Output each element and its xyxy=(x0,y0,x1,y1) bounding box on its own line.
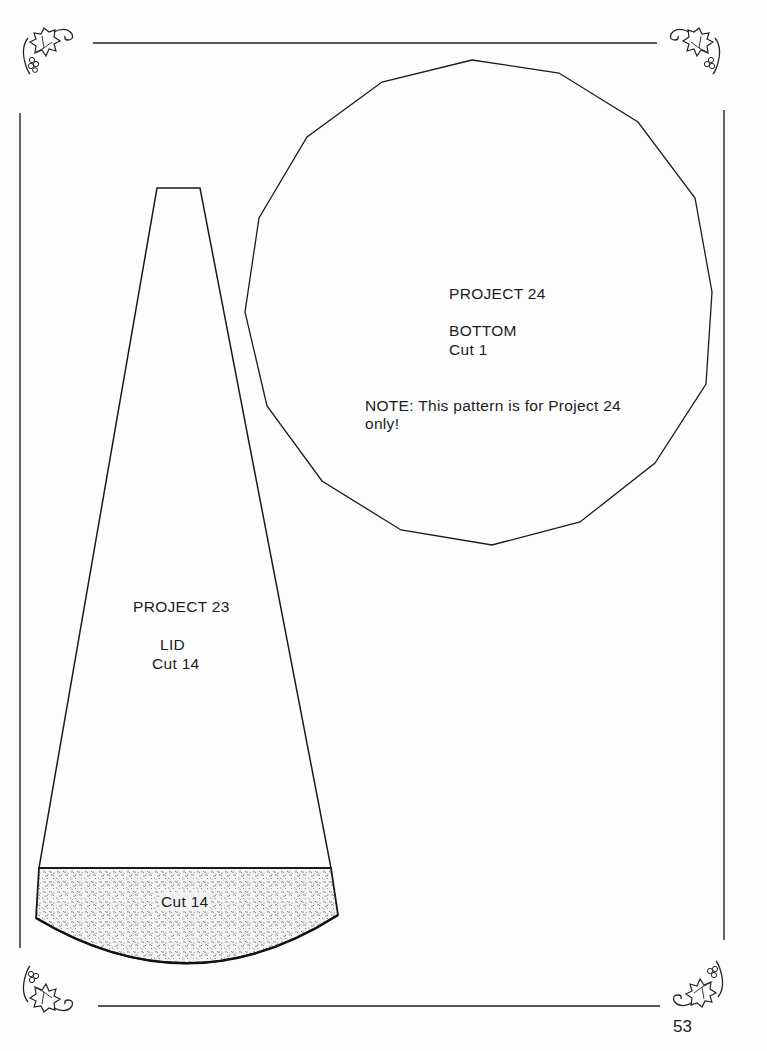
project24-cut-count: Cut 1 xyxy=(449,340,488,359)
pattern-page: PROJECT 24 BOTTOM Cut 1 NOTE: This patte… xyxy=(0,0,767,1051)
grape-vine-ornament-top-right-icon xyxy=(669,20,729,80)
pattern-artwork xyxy=(0,0,767,1051)
grape-vine-ornament-bottom-left-icon xyxy=(14,960,74,1020)
project23-piece-name: LID xyxy=(160,635,185,654)
project24-title: PROJECT 24 xyxy=(449,284,546,303)
project23-title: PROJECT 23 xyxy=(133,597,230,616)
project23-cut-count: Cut 14 xyxy=(152,654,199,673)
project23-lid-pattern-outline xyxy=(39,188,331,868)
project23-lid-base-band xyxy=(36,868,338,963)
grape-vine-ornament-top-left-icon xyxy=(14,20,74,80)
project23-band-cut-count: Cut 14 xyxy=(159,892,210,911)
project24-note-line1: NOTE: This pattern is for Project 24 xyxy=(365,396,621,415)
project24-piece-name: BOTTOM xyxy=(449,321,517,340)
project24-note-line2: only! xyxy=(365,414,399,433)
grape-vine-ornament-bottom-right-icon xyxy=(672,955,732,1015)
page-number: 53 xyxy=(673,1017,692,1037)
